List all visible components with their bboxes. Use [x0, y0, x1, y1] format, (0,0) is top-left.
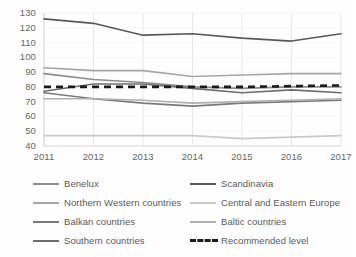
legend-item-central-and-eastern-europe[interactable]: Central and Eastern Europe — [190, 193, 348, 212]
plot-svg — [0, 0, 350, 165]
x-axis-tick-label: 2015 — [223, 151, 261, 162]
legend-swatch-icon — [33, 179, 59, 189]
legend-swatch-icon — [190, 236, 216, 246]
legend-swatch-icon — [33, 198, 59, 208]
legend-item-balkan-countries[interactable]: Balkan countries — [33, 212, 183, 231]
legend-item-southern-countries[interactable]: Southern countries — [33, 231, 183, 250]
legend-item-northern-western-countries[interactable]: Northern Western countries — [33, 193, 183, 212]
legend-label: Northern Western countries — [64, 197, 181, 208]
y-axis-tick-label: 90 — [10, 66, 36, 77]
legend-swatch-icon — [190, 217, 216, 227]
y-axis-tick-label: 120 — [10, 22, 36, 33]
legend-swatch-icon — [33, 236, 59, 246]
y-axis-tick-label: 40 — [10, 140, 36, 151]
legend-label: Benelux — [64, 178, 99, 189]
legend-label: Scandinavia — [221, 178, 273, 189]
legend-item-scandinavia[interactable]: Scandinavia — [190, 174, 348, 193]
legend-label: Southern countries — [64, 235, 145, 246]
x-axis-tick-label: 2014 — [174, 151, 212, 162]
y-axis-tick-label: 60 — [10, 110, 36, 121]
y-axis-tick-label: 80 — [10, 81, 36, 92]
y-axis-tick-label: 70 — [10, 96, 36, 107]
legend-swatch-icon — [190, 179, 216, 189]
legend-label: Recommended level — [221, 235, 308, 246]
legend-item-baltic-countries[interactable]: Baltic countries — [190, 212, 348, 231]
x-axis-tick-label: 2016 — [273, 151, 311, 162]
legend-swatch-icon — [190, 198, 216, 208]
legend-label: Balkan countries — [64, 216, 135, 227]
y-axis-tick-label: 110 — [10, 37, 36, 48]
legend-label: Central and Eastern Europe — [221, 197, 340, 208]
legend-label: Baltic countries — [221, 216, 286, 227]
legend-item-recommended-level[interactable]: Recommended level — [190, 231, 348, 250]
x-axis-tick-label: 2013 — [124, 151, 162, 162]
y-axis-tick-label: 130 — [10, 7, 36, 18]
x-axis-tick-label: 2012 — [75, 151, 113, 162]
x-axis-tick-label: 2011 — [25, 151, 63, 162]
x-axis-tick-label: 2017 — [322, 151, 356, 162]
plot-area: 1301201101009080706050402011201220132014… — [0, 0, 350, 165]
legend-swatch-icon — [33, 217, 59, 227]
legend-item-benelux[interactable]: Benelux — [33, 174, 183, 193]
y-axis-tick-label: 100 — [10, 51, 36, 62]
chart-legend: BeneluxScandinaviaNorthern Western count… — [0, 168, 350, 257]
y-axis-tick-label: 50 — [10, 125, 36, 136]
